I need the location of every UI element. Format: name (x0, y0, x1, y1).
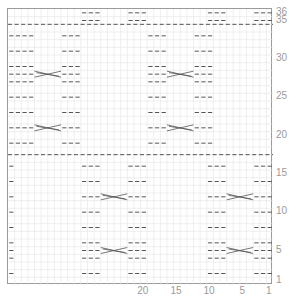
column-label: 20 (137, 285, 148, 296)
knitting-chart-grid (7, 8, 272, 284)
row-label: 25 (276, 90, 287, 101)
column-label: 5 (239, 285, 245, 296)
column-label: 1 (266, 285, 272, 296)
row-label: 30 (276, 52, 287, 63)
chart-svg (8, 9, 273, 285)
row-label: 5 (276, 244, 282, 255)
row-label: 35 (276, 14, 287, 25)
row-label: 15 (276, 167, 287, 178)
row-label: 10 (276, 205, 287, 216)
row-label: 20 (276, 129, 287, 140)
column-label: 15 (170, 285, 181, 296)
column-label: 10 (204, 285, 215, 296)
row-label: 1 (276, 274, 282, 285)
